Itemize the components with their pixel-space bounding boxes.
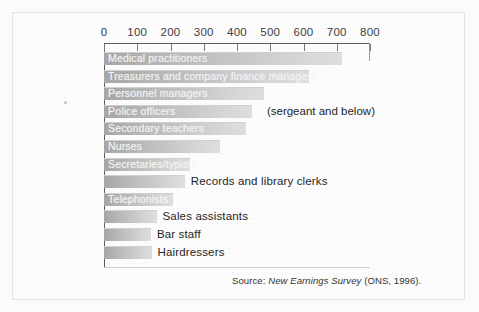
bar-row: Personnel managers xyxy=(104,87,370,105)
bar xyxy=(104,228,151,241)
x-axis-tick-labels: 0100200300400500600700800 xyxy=(0,26,479,40)
x-axis-tick-label: 0 xyxy=(101,26,108,38)
x-axis-tick-mark xyxy=(270,44,271,51)
bar-category-label: Bar staff xyxy=(157,227,201,241)
bar-row: Records and library clerks xyxy=(104,175,370,193)
bar-row: Sales assistants xyxy=(104,210,370,228)
bar-category-label: Police officers xyxy=(108,105,175,118)
x-axis-tick-mark xyxy=(304,44,305,51)
x-axis-tick-mark xyxy=(104,44,105,51)
bar-row: Medical practitioners xyxy=(104,52,370,70)
bar xyxy=(104,246,152,259)
bar-category-label: Secondary teachers xyxy=(108,122,204,135)
x-axis-tick-mark xyxy=(237,44,238,51)
x-axis-tick-label: 100 xyxy=(127,26,147,38)
x-axis-tick-label: 700 xyxy=(327,26,347,38)
x-axis-tick-label: 500 xyxy=(260,26,280,38)
x-axis-tick-label: 300 xyxy=(194,26,214,38)
bar-row: Treasurers and company finance managers xyxy=(104,70,370,88)
bar-row: Nurses xyxy=(104,140,370,158)
bar xyxy=(104,175,185,188)
bar-category-label: Treasurers and company finance managers xyxy=(108,70,317,83)
plot-area: Medical practitionersTreasurers and comp… xyxy=(104,44,370,268)
bar-category-label: Nurses xyxy=(108,140,142,153)
x-axis-tick-label: 400 xyxy=(227,26,247,38)
x-axis-tick-mark xyxy=(370,44,371,51)
bar-row: Secretaries/typists xyxy=(104,158,370,176)
bar-row: Police officers(sergeant and below) xyxy=(104,105,370,123)
bar-category-label: Sales assistants xyxy=(163,209,249,223)
bar-category-label: Medical practitioners xyxy=(108,52,207,65)
x-axis-tick-label: 200 xyxy=(160,26,180,38)
scan-speck-artifact xyxy=(64,101,67,104)
x-axis-tick-mark xyxy=(337,44,338,51)
bar-category-label: Secretaries/typists xyxy=(108,158,197,171)
figure-container: 0100200300400500600700800 Medical practi… xyxy=(0,0,479,312)
bar-category-label: Personnel managers xyxy=(108,87,208,100)
bar xyxy=(104,210,157,223)
bar-category-label: Telephonists xyxy=(108,193,168,206)
bar-row: Bar staff xyxy=(104,228,370,246)
bar-annotation: (sergeant and below) xyxy=(267,104,375,118)
x-axis-tick-mark xyxy=(171,44,172,51)
x-axis-tick-label: 800 xyxy=(360,26,380,38)
bar-row: Secondary teachers xyxy=(104,122,370,140)
bar-row: Hairdressers xyxy=(104,246,370,264)
source-note: Source: New Earnings Survey (ONS, 1996). xyxy=(232,275,421,286)
source-note-suffix: (ONS, 1996). xyxy=(361,275,421,286)
bar-category-label: Hairdressers xyxy=(158,245,225,259)
x-axis-tick-mark xyxy=(137,44,138,51)
x-axis-baseline xyxy=(104,267,370,268)
bar-row: Telephonists xyxy=(104,193,370,211)
source-note-publication: New Earnings Survey xyxy=(268,275,361,286)
x-axis-tick-label: 600 xyxy=(293,26,313,38)
bar-series: Medical practitionersTreasurers and comp… xyxy=(104,52,370,263)
x-axis-tick-mark xyxy=(204,44,205,51)
bar-category-label: Records and library clerks xyxy=(191,174,328,188)
source-note-prefix: Source: xyxy=(232,275,268,286)
